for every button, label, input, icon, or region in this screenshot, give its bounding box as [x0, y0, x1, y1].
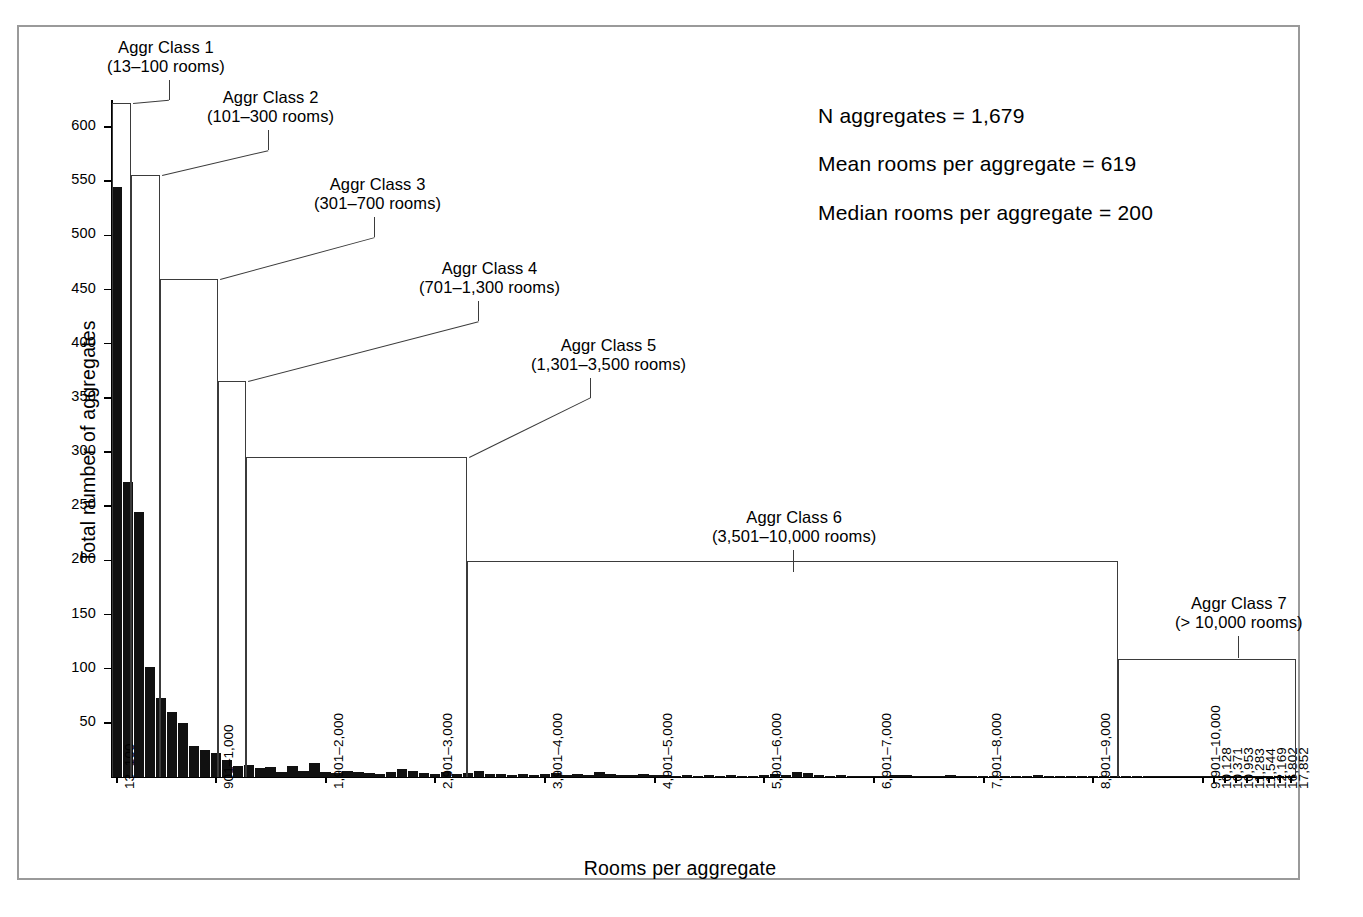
- aggr-class-leader-stub: [793, 550, 794, 572]
- aggr-class-name: Aggr Class 5: [531, 336, 686, 355]
- y-tick-mark: [104, 451, 111, 453]
- stat-n-aggregates: N aggregates = 1,679: [818, 104, 1025, 128]
- y-tick-mark: [104, 560, 111, 562]
- y-tick-label: 100: [50, 659, 96, 675]
- y-tick-label: 150: [50, 605, 96, 621]
- aggr-class-rectangle: [246, 457, 467, 777]
- aggr-class-rectangle: [112, 103, 131, 777]
- x-tick-mark: [983, 777, 985, 783]
- aggr-class-name: Aggr Class 3: [314, 175, 441, 194]
- aggr-class-label: Aggr Class 7(> 10,000 rooms): [1175, 594, 1303, 633]
- x-tick-mark: [763, 777, 765, 783]
- aggr-class-name: Aggr Class 7: [1175, 594, 1303, 613]
- aggr-class-rectangle: [131, 175, 160, 777]
- aggr-class-leader-stub: [268, 130, 269, 150]
- y-tick-mark: [104, 235, 111, 237]
- aggr-class-leader-stub: [478, 301, 479, 321]
- aggr-class-name: Aggr Class 2: [207, 88, 334, 107]
- aggr-class-label: Aggr Class 1(13–100 rooms): [107, 38, 225, 77]
- x-tick-mark: [1279, 777, 1281, 783]
- aggr-class-rectangle: [1118, 659, 1296, 777]
- y-tick-mark: [104, 343, 111, 345]
- y-tick-label: 600: [50, 117, 96, 133]
- y-tick-label: 500: [50, 225, 96, 241]
- stat-mean-rooms: Mean rooms per aggregate = 619: [818, 152, 1136, 176]
- aggr-class-name: Aggr Class 6: [712, 508, 876, 527]
- y-tick-mark: [104, 289, 111, 291]
- y-tick-label: 50: [50, 713, 96, 729]
- aggr-class-range: (101–300 rooms): [207, 107, 334, 126]
- aggr-class-leader-stub: [169, 80, 170, 100]
- y-axis-title: Total number of aggregates: [77, 292, 100, 592]
- x-tick-mark: [1268, 777, 1270, 783]
- stat-median-rooms: Median rooms per aggregate = 200: [818, 201, 1153, 225]
- aggr-class-range: (301–700 rooms): [314, 194, 441, 213]
- y-tick-mark: [104, 614, 111, 616]
- aggr-class-label: Aggr Class 4(701–1,300 rooms): [419, 259, 560, 298]
- y-tick-mark: [104, 126, 111, 128]
- x-tick-mark: [1213, 777, 1215, 783]
- aggr-class-name: Aggr Class 1: [107, 38, 225, 57]
- y-tick-mark: [104, 722, 111, 724]
- x-axis-title: Rooms per aggregate: [470, 857, 890, 880]
- figure-root: 50100150200250300350400450500550600 Tota…: [0, 0, 1363, 917]
- x-tick-mark: [1202, 777, 1204, 783]
- aggr-class-label: Aggr Class 5(1,301–3,500 rooms): [531, 336, 686, 375]
- aggr-class-leader-stub: [1238, 636, 1239, 658]
- aggr-class-rectangle: [467, 561, 1118, 777]
- x-tick-mark: [1257, 777, 1259, 783]
- aggr-class-rectangle: [218, 381, 246, 777]
- x-tick-mark: [434, 777, 436, 783]
- x-tick-mark: [544, 777, 546, 783]
- y-tick-mark: [104, 668, 111, 670]
- x-tick-mark: [654, 777, 656, 783]
- x-tick-mark: [215, 777, 217, 783]
- aggr-class-label: Aggr Class 2(101–300 rooms): [207, 88, 334, 127]
- x-tick-mark: [873, 777, 875, 783]
- x-tick-mark: [1290, 777, 1292, 783]
- x-tick-mark: [116, 777, 118, 783]
- aggr-class-label: Aggr Class 6(3,501–10,000 rooms): [712, 508, 876, 547]
- aggr-class-rectangle: [160, 279, 218, 777]
- x-tick-mark: [325, 777, 327, 783]
- y-tick-label: 550: [50, 171, 96, 187]
- y-tick-mark: [104, 180, 111, 182]
- aggr-class-range: (701–1,300 rooms): [419, 278, 560, 297]
- x-tick-mark: [1246, 777, 1248, 783]
- x-tick-mark: [1224, 777, 1226, 783]
- aggr-class-range: (3,501–10,000 rooms): [712, 527, 876, 546]
- aggr-class-range: (> 10,000 rooms): [1175, 613, 1303, 632]
- aggr-class-range: (13–100 rooms): [107, 57, 225, 76]
- aggr-class-leader-stub: [590, 378, 591, 398]
- plot-area: 50100150200250300350400450500550600 Tota…: [0, 0, 1363, 917]
- aggr-class-range: (1,301–3,500 rooms): [531, 355, 686, 374]
- y-tick-mark: [104, 505, 111, 507]
- aggr-class-name: Aggr Class 4: [419, 259, 560, 278]
- x-tick-mark: [1092, 777, 1094, 783]
- x-tick-mark: [1235, 777, 1237, 783]
- aggr-class-label: Aggr Class 3(301–700 rooms): [314, 175, 441, 214]
- y-tick-mark: [104, 397, 111, 399]
- x-tick-label: 17,852: [1296, 747, 1311, 789]
- aggr-class-leader-stub: [374, 217, 375, 237]
